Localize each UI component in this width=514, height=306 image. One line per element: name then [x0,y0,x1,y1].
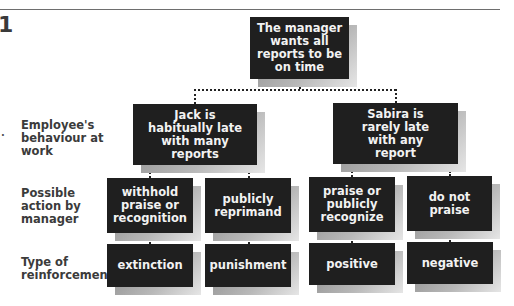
reinforcement-node-extinction: extinction [107,244,193,287]
behaviour-text-sabira: Sabira is rarely late with any report [347,108,444,160]
row-label-behaviour: Employee's behaviour at work [21,119,121,158]
reinforcement-node-punishment: punishment [205,244,291,287]
action-text-nopraise: do not praise [425,191,474,217]
connector-to-sabira [395,89,397,103]
action-node-reprimand: publicly reprimand [205,178,291,233]
reinforcement-node-positive: positive [309,243,395,285]
top-rule [0,9,500,10]
reinforcement-text-positive: positive [326,258,378,271]
action-node-praise: praise or publicly recognize [309,177,395,232]
reinforcement-node-negative: negative [407,242,493,284]
behaviour-node-jack: Jack is habitually late with many report… [133,104,257,165]
reinforcement-text-punishment: punishment [209,259,286,272]
figure-number: 1 [0,14,13,36]
root-node: The manager wants all reports to be on t… [250,17,349,79]
row-label-reinforcement: Type of reinforcement [21,256,111,282]
connector-root-horizontal [194,89,396,91]
behaviour-node-sabira: Sabira is rarely late with any report [333,103,458,164]
behaviour-text-jack: Jack is habitually late with many report… [145,109,245,161]
root-node-text: The manager wants all reports to be on t… [254,22,345,74]
action-text-praise: praise or publicly recognize [313,185,391,224]
connector-to-jack [194,89,196,104]
action-text-reprimand: publicly reprimand [214,193,281,219]
reinforcement-text-negative: negative [422,257,479,270]
row-label-action: Possible action by manager [21,187,101,226]
row-marker: . [1,127,5,138]
action-text-withhold: withhold praise or recognition [111,186,189,225]
reinforcement-text-extinction: extinction [117,259,182,272]
action-node-withhold: withhold praise or recognition [107,178,193,233]
action-node-nopraise: do not praise [407,176,492,231]
